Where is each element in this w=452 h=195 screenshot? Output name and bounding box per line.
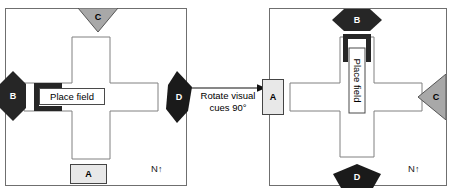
- transition-caption-line2: cues 90°: [187, 102, 269, 114]
- place-field-label-before: Place field: [39, 88, 105, 105]
- cue-label: B: [354, 16, 361, 25]
- cue-b-before: B: [0, 71, 26, 121]
- cue-label: C: [433, 93, 440, 102]
- cue-label: D: [354, 173, 361, 182]
- cue-d-after: D: [333, 164, 381, 188]
- cue-label: B: [10, 92, 17, 101]
- cue-label: C: [95, 13, 102, 22]
- cue-label: A: [270, 93, 277, 102]
- cue-b-after: B: [332, 9, 382, 31]
- compass-after: N↑: [408, 163, 419, 174]
- place-field-bracket-before: [34, 106, 62, 111]
- compass-letter: N: [408, 163, 415, 174]
- place-field-bracket-after: [366, 34, 371, 62]
- compass-before: N↑: [151, 163, 162, 174]
- transition-group: Rotate visual cues 90°: [187, 60, 269, 130]
- panel-after-rotation: B C A D: [269, 8, 447, 186]
- compass-arrow-icon: ↑: [415, 164, 420, 174]
- place-field-bracket-after: [343, 34, 348, 62]
- cue-a-before: A: [70, 164, 107, 184]
- cue-label: D: [176, 93, 183, 102]
- panel-before-rotation: C B D A: [5, 8, 187, 186]
- compass-arrow-icon: ↑: [158, 164, 163, 174]
- cue-d-before: D: [166, 71, 192, 123]
- cue-a-after: A: [262, 79, 284, 115]
- transition-caption-line1: Rotate visual: [187, 90, 269, 102]
- compass-letter: N: [151, 163, 158, 174]
- cue-c-before: C: [78, 8, 118, 32]
- figure-rotation-diagram: C B D A: [0, 0, 452, 195]
- cue-label: A: [85, 170, 92, 179]
- transition-caption: Rotate visual cues 90°: [187, 90, 269, 114]
- cue-c-after: C: [418, 74, 446, 120]
- place-field-label-after: Place field: [349, 48, 366, 114]
